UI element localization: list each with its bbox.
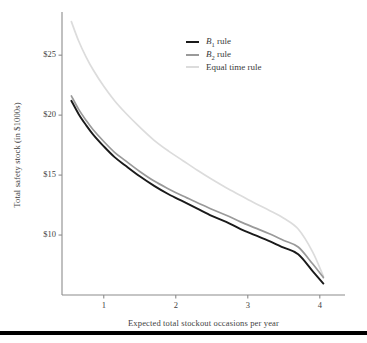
x-tick-label: 3 (228, 300, 268, 310)
x-tick-label: 2 (156, 300, 196, 310)
legend-label: B2 rule (206, 49, 231, 61)
legend-item: Equal time rule (186, 61, 261, 74)
x-tick-label: 1 (84, 300, 124, 310)
x-tick-label: 4 (300, 300, 340, 310)
legend-item: B2 rule (186, 49, 261, 62)
legend-swatch-line (186, 41, 199, 43)
legend-swatch-line (186, 66, 199, 68)
x-axis-tick-labels: 1234 (0, 0, 367, 343)
legend-swatch-line (186, 54, 199, 56)
legend-label: B1 rule (206, 36, 231, 48)
legend-label: Equal time rule (206, 62, 261, 72)
chart-legend: B1 ruleB2 ruleEqual time rule (186, 36, 261, 74)
chart-figure: Total safety stock (in $1000s) Expected … (0, 0, 367, 343)
legend-item: B1 rule (186, 36, 261, 49)
footer-rule (0, 331, 367, 335)
